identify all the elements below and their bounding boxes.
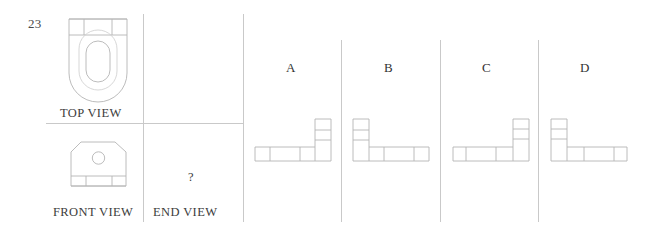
question-panel: 23 TOP VIEW — [0, 0, 654, 236]
option-b-drawing[interactable] — [352, 118, 430, 162]
option-c-drawing[interactable] — [452, 118, 530, 162]
divider-vertical-option-a-b — [341, 40, 342, 222]
option-a-drawing[interactable] — [254, 118, 332, 162]
option-d-letter: D — [580, 60, 590, 76]
divider-vertical-option-c-d — [538, 40, 539, 222]
end-view-label: END VIEW — [153, 205, 217, 220]
option-d-drawing[interactable] — [550, 118, 628, 162]
top-view-label: TOP VIEW — [60, 106, 122, 121]
divider-vertical-option-b-c — [440, 40, 441, 222]
divider-vertical-top-front — [143, 14, 144, 222]
option-a-letter: A — [286, 60, 296, 76]
question-number: 23 — [28, 16, 41, 32]
top-view-drawing — [67, 17, 129, 103]
front-view-label: FRONT VIEW — [53, 205, 133, 220]
divider-vertical-given-options — [243, 14, 244, 222]
end-view-question-mark: ? — [188, 170, 194, 185]
option-b-letter: B — [384, 60, 393, 76]
front-view-drawing — [69, 140, 129, 188]
option-c-letter: C — [482, 60, 491, 76]
divider-horizontal-given-views — [46, 123, 243, 124]
